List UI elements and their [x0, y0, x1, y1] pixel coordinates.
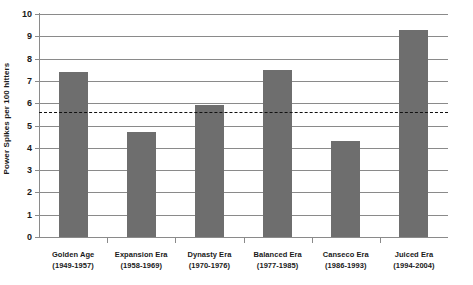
x-axis-label: Dynasty Era(1970-1976)	[175, 249, 243, 271]
gridline	[39, 59, 448, 60]
x-tick-mark	[175, 238, 176, 243]
bar	[195, 105, 224, 237]
gridline	[39, 148, 448, 149]
y-tick-label: 4	[2, 144, 32, 153]
x-axis-label: Canseco Era(1986-1993)	[312, 249, 380, 271]
y-tick-label: 5	[2, 122, 32, 131]
era-name: Canseco Era	[312, 249, 380, 260]
bar	[331, 141, 360, 237]
era-years: (1958-1969)	[107, 260, 175, 271]
plot-area	[39, 14, 448, 237]
gridline	[39, 14, 448, 15]
bar	[263, 70, 292, 237]
era-years: (1994-2004)	[380, 260, 448, 271]
bar	[127, 132, 156, 237]
y-tick-label: 9	[2, 32, 32, 41]
y-tick-label: 1	[2, 211, 32, 220]
x-axis-label: Expansion Era(1958-1969)	[107, 249, 175, 271]
gridline	[39, 170, 448, 171]
bar-chart: Power Spikes per 100 hitters 01234567891…	[0, 0, 473, 285]
era-years: (1986-1993)	[312, 260, 380, 271]
reference-line	[39, 112, 448, 113]
bar	[399, 30, 428, 237]
era-name: Dynasty Era	[175, 249, 243, 260]
x-tick-mark	[107, 238, 108, 243]
y-tick-label: 2	[2, 188, 32, 197]
era-name: Expansion Era	[107, 249, 175, 260]
era-years: (1949-1957)	[39, 260, 107, 271]
y-tick-label: 8	[2, 55, 32, 64]
x-axis-label: Balanced Era(1977-1985)	[244, 249, 312, 271]
x-tick-mark	[244, 238, 245, 243]
gridline	[39, 192, 448, 193]
x-axis-label: Juiced Era(1994-2004)	[380, 249, 448, 271]
bar	[59, 72, 88, 237]
gridline	[39, 81, 448, 82]
y-tick-label: 10	[2, 10, 32, 19]
x-axis-label: Golden Age(1949-1957)	[39, 249, 107, 271]
gridline	[39, 126, 448, 127]
x-tick-mark	[380, 238, 381, 243]
era-years: (1977-1985)	[244, 260, 312, 271]
y-tick-label: 7	[2, 77, 32, 86]
y-tick-label: 6	[2, 99, 32, 108]
gridline	[39, 36, 448, 37]
era-name: Golden Age	[39, 249, 107, 260]
x-tick-mark	[312, 238, 313, 243]
y-tick-label: 0	[2, 233, 32, 242]
era-name: Balanced Era	[244, 249, 312, 260]
era-years: (1970-1976)	[175, 260, 243, 271]
y-tick-label: 3	[2, 166, 32, 175]
gridline	[39, 215, 448, 216]
era-name: Juiced Era	[380, 249, 448, 260]
gridline	[39, 103, 448, 104]
